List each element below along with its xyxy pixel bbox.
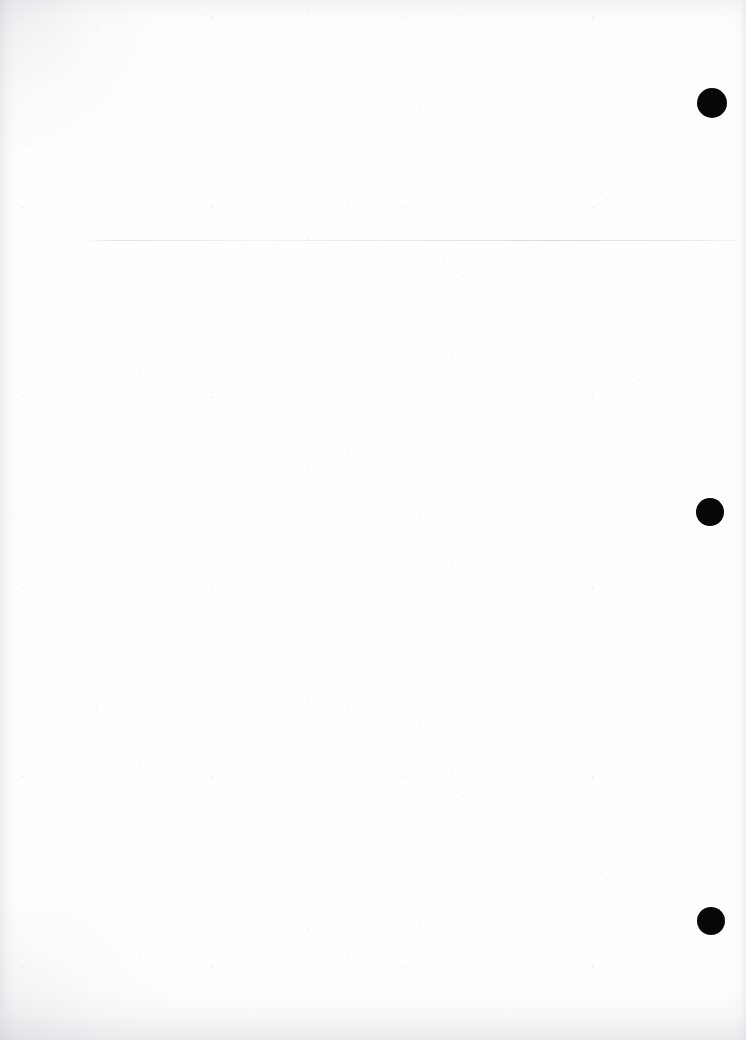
scanned-page (0, 0, 746, 1040)
paper-background (0, 0, 746, 1040)
binding-mark-3 (697, 907, 725, 935)
binding-mark-1 (697, 88, 727, 118)
binding-mark-2 (696, 498, 724, 526)
